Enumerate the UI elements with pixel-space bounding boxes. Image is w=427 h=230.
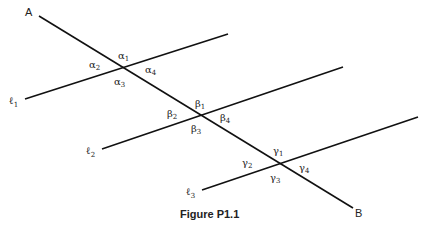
point-label-a: A: [25, 6, 33, 18]
line-l1: [25, 34, 228, 99]
figure-diagram: A B ℓ1 ℓ2 ℓ3 α1 α2 α3 α4 β1 β2 β3 β4 γ1 …: [0, 0, 427, 230]
line-l2: [102, 67, 343, 149]
angle-gamma-3: γ3: [270, 172, 280, 185]
figure-caption: Figure P1.1: [180, 208, 239, 220]
angle-alpha-1: α1: [118, 50, 129, 63]
line-l3: [202, 117, 418, 190]
line-label-l1: ℓ1: [9, 95, 18, 109]
angle-gamma-4: γ4: [299, 162, 310, 175]
point-label-b: B: [355, 207, 362, 219]
angle-gamma-1: γ1: [273, 145, 283, 158]
angle-gamma-2: γ2: [242, 157, 252, 170]
angle-beta-3: β3: [191, 123, 201, 136]
angle-beta-4: β4: [220, 112, 231, 125]
angle-alpha-3: α3: [114, 76, 125, 89]
line-label-l3: ℓ3: [186, 186, 195, 200]
angle-alpha-2: α2: [89, 59, 100, 72]
angle-beta-1: β1: [195, 98, 205, 111]
angle-beta-2: β2: [167, 108, 177, 121]
angle-alpha-4: α4: [145, 64, 157, 77]
line-label-l2: ℓ2: [86, 145, 95, 159]
